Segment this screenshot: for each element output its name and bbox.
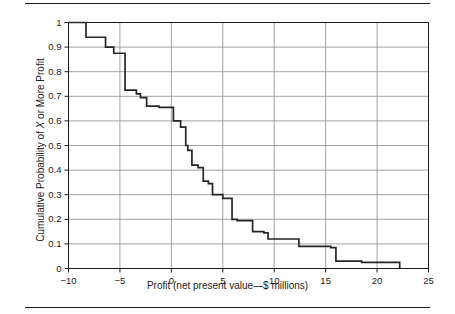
- chart-plot-area: [0, 0, 455, 314]
- y-tick-label: 1: [56, 18, 61, 28]
- y-tick-label: 0.5: [48, 141, 61, 151]
- y-tick-label: 0.4: [48, 165, 61, 175]
- y-tick-label: 0: [56, 264, 61, 274]
- y-axis-title: Cumulative Probability of X or More Prof…: [36, 25, 46, 275]
- gridlines-group: [69, 23, 429, 269]
- y-tick-label: 0.9: [48, 42, 61, 52]
- y-tick-label: 0.8: [48, 67, 61, 77]
- y-tick-label: 0.7: [48, 91, 61, 101]
- y-tick-label: 0.1: [48, 239, 61, 249]
- y-axis-title-variable: X: [35, 122, 46, 129]
- x-axis-title: Profit (net present value—$ millions): [0, 281, 455, 291]
- y-axis-title-part1: Cumulative Probability of: [35, 128, 46, 241]
- tick-marks-group: [65, 23, 429, 273]
- y-tick-label: 0.3: [48, 190, 61, 200]
- y-axis-title-part2: or More Profit: [35, 58, 46, 121]
- y-tick-label: 0.2: [48, 214, 61, 224]
- y-tick-label: 0.6: [48, 116, 61, 126]
- figure-container: 00.10.20.30.40.50.60.70.80.91 −10−505101…: [0, 0, 455, 314]
